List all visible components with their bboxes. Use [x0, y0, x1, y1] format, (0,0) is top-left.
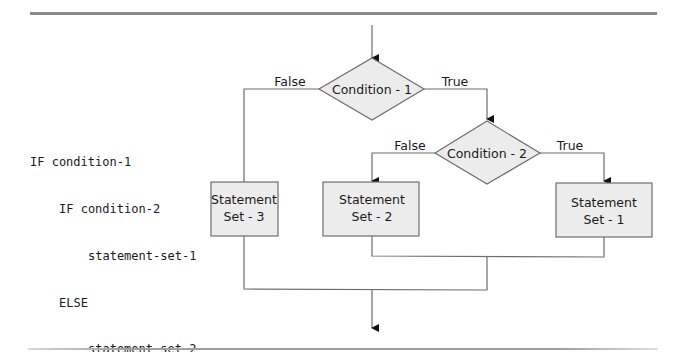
c1-true-connector: [424, 89, 487, 119]
false-label: False: [394, 138, 426, 153]
false-label: False: [274, 74, 306, 89]
c2-true-connector: [540, 153, 604, 181]
statement-line-1: Statement: [571, 195, 637, 210]
true-label: True: [441, 74, 469, 89]
decision-label: Condition - 1: [332, 82, 412, 97]
statement-box-set-3: Statement Set - 3: [211, 182, 278, 236]
statement-line-1: Statement: [211, 192, 277, 207]
statement-box-set-2: Statement Set - 2: [323, 182, 419, 236]
connector-lines: [244, 25, 604, 328]
true-label: True: [556, 138, 584, 153]
statement-line-2: Set - 1: [584, 212, 625, 227]
merge-outer-connector: [244, 235, 487, 290]
statement-line-2: Set - 2: [352, 209, 393, 224]
merge-inner-connector: [372, 235, 604, 257]
statement-box-set-1: Statement Set - 1: [556, 183, 652, 237]
c2-false-connector: [372, 153, 435, 181]
statement-line-1: Statement: [339, 192, 405, 207]
bottom-rule: [28, 348, 658, 350]
flowchart: Condition - 1 False True Condition - 2 F…: [0, 0, 682, 352]
decision-label: Condition - 2: [447, 146, 527, 161]
statement-line-2: Set - 3: [224, 209, 265, 224]
box-shape: [556, 183, 652, 237]
